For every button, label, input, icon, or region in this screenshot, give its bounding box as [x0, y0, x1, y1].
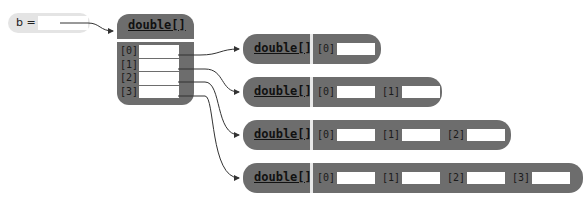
arrow-row-1: [178, 69, 239, 92]
arrow-row-3: [178, 96, 239, 178]
arrow-b-to-outer: [60, 23, 113, 31]
reference-arrows: [0, 0, 584, 215]
arrow-row-0: [178, 49, 239, 55]
